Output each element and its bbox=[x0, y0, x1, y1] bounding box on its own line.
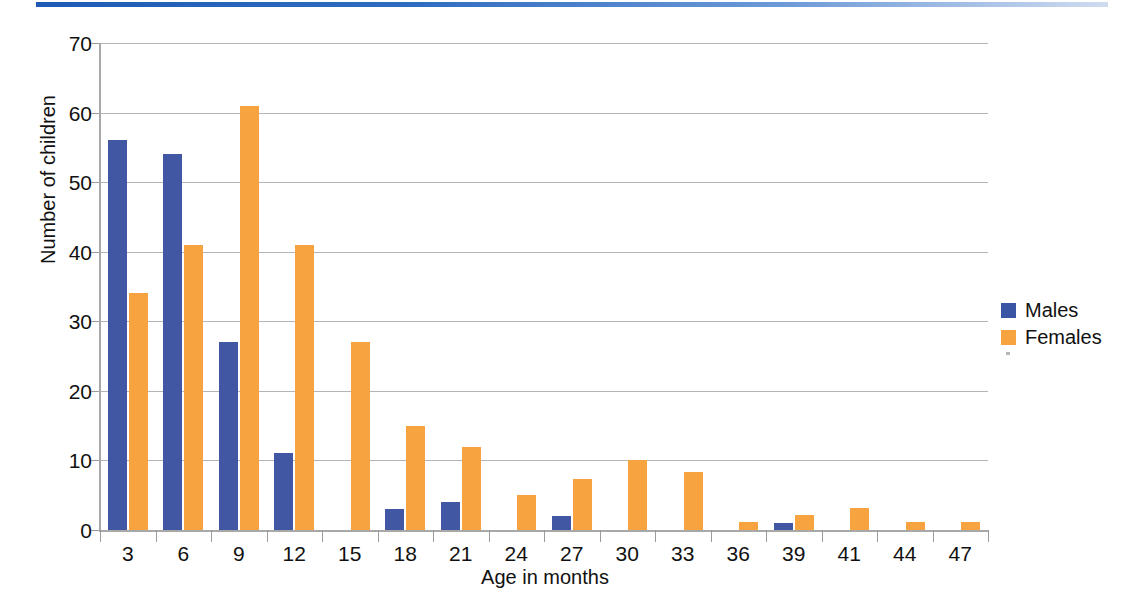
x-tick-mark bbox=[988, 530, 989, 542]
legend-item[interactable]: Females bbox=[1001, 324, 1121, 351]
legend-label: Females bbox=[1025, 326, 1102, 349]
x-tick-label: 39 bbox=[766, 543, 822, 564]
x-tick-label: 21 bbox=[433, 543, 489, 564]
x-tick-label: 27 bbox=[544, 543, 600, 564]
x-tick-mark bbox=[655, 530, 656, 542]
grouped-bar-chart: Number of children Age in months 0102030… bbox=[0, 0, 1131, 612]
legend-item[interactable]: Males bbox=[1001, 297, 1121, 324]
x-tick-label: 24 bbox=[489, 543, 545, 564]
y-tick-label: 50 bbox=[48, 172, 92, 193]
gridline bbox=[100, 321, 988, 322]
bar-females bbox=[517, 495, 536, 530]
x-tick-mark bbox=[877, 530, 878, 542]
bar-females bbox=[739, 522, 758, 530]
bar-females bbox=[129, 293, 148, 530]
x-tick-mark bbox=[711, 530, 712, 542]
x-tick-mark bbox=[600, 530, 601, 542]
bar-females bbox=[573, 479, 592, 530]
x-tick-mark bbox=[544, 530, 545, 542]
bar-females bbox=[906, 522, 925, 530]
x-tick-mark bbox=[489, 530, 490, 542]
y-tick-label: 70 bbox=[48, 33, 92, 54]
x-tick-mark bbox=[100, 530, 101, 542]
x-axis-title: Age in months bbox=[100, 566, 990, 589]
y-tick-label: 60 bbox=[48, 102, 92, 123]
y-tick-label: 0 bbox=[48, 520, 92, 541]
x-tick-label: 9 bbox=[211, 543, 267, 564]
bar-females bbox=[406, 426, 425, 530]
y-axis-tick-labels: 010203040506070 bbox=[42, 43, 92, 530]
legend-swatch-females-icon bbox=[1001, 330, 1016, 345]
bar-females bbox=[961, 522, 980, 530]
x-tick-label: 15 bbox=[322, 543, 378, 564]
x-tick-label: 41 bbox=[822, 543, 878, 564]
bar-males bbox=[219, 342, 238, 530]
x-tick-label: 30 bbox=[600, 543, 656, 564]
legend-speck-artifact bbox=[1006, 352, 1010, 355]
gridline bbox=[100, 182, 988, 183]
bar-males bbox=[441, 502, 460, 530]
x-tick-mark bbox=[156, 530, 157, 542]
bar-females bbox=[795, 515, 814, 530]
x-tick-mark bbox=[322, 530, 323, 542]
plot-area: 36912151821242730333639414447 bbox=[100, 43, 988, 530]
x-tick-mark bbox=[766, 530, 767, 542]
legend-label: Males bbox=[1025, 299, 1078, 322]
bar-males bbox=[274, 453, 293, 530]
bar-females bbox=[295, 245, 314, 530]
x-tick-label: 47 bbox=[933, 543, 989, 564]
bar-females bbox=[628, 460, 647, 530]
x-tick-mark bbox=[433, 530, 434, 542]
bar-females bbox=[240, 106, 259, 530]
bar-females bbox=[850, 508, 869, 530]
y-tick-label: 20 bbox=[48, 380, 92, 401]
x-tick-label: 3 bbox=[100, 543, 156, 564]
bar-males bbox=[108, 140, 127, 530]
bar-males bbox=[774, 523, 793, 530]
legend-swatch-males-icon bbox=[1001, 303, 1016, 318]
bar-females bbox=[351, 342, 370, 530]
gridline bbox=[100, 43, 988, 44]
bar-females bbox=[462, 447, 481, 530]
x-tick-label: 33 bbox=[655, 543, 711, 564]
x-tick-mark bbox=[267, 530, 268, 542]
y-axis-line bbox=[99, 43, 101, 531]
gridline bbox=[100, 113, 988, 114]
y-tick-label: 40 bbox=[48, 241, 92, 262]
bar-males bbox=[163, 154, 182, 530]
x-tick-label: 12 bbox=[267, 543, 323, 564]
x-tick-label: 6 bbox=[156, 543, 212, 564]
x-tick-label: 36 bbox=[711, 543, 767, 564]
x-tick-label: 18 bbox=[378, 543, 434, 564]
x-tick-mark bbox=[822, 530, 823, 542]
x-tick-mark bbox=[933, 530, 934, 542]
x-tick-mark bbox=[378, 530, 379, 542]
bar-males bbox=[552, 516, 571, 530]
y-tick-label: 10 bbox=[48, 450, 92, 471]
y-tick-label: 30 bbox=[48, 311, 92, 332]
x-tick-label: 44 bbox=[877, 543, 933, 564]
bar-males bbox=[385, 509, 404, 530]
chart-legend: MalesFemales bbox=[1001, 297, 1121, 351]
bar-females bbox=[684, 472, 703, 530]
x-tick-mark bbox=[211, 530, 212, 542]
bar-females bbox=[184, 245, 203, 530]
gridline bbox=[100, 252, 988, 253]
